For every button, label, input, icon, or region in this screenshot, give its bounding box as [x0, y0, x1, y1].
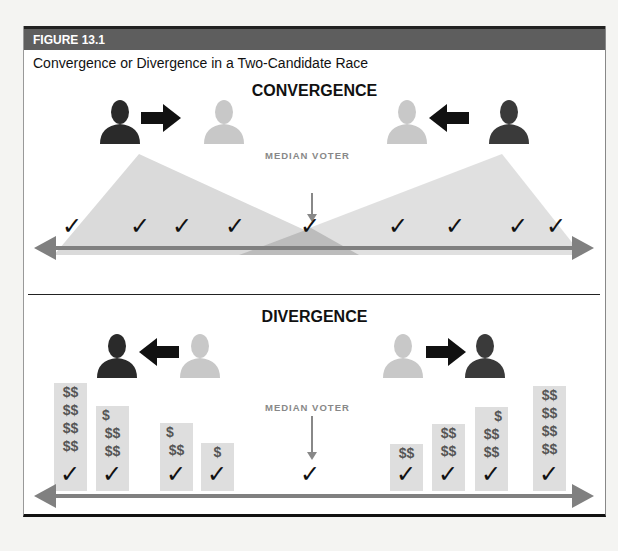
left-dark-person-icon — [97, 334, 137, 378]
figure: FIGURE 13.1 Convergence or Divergence in… — [23, 26, 606, 517]
median-voter-check: ✓ — [300, 462, 320, 486]
divergence-median-label: MEDIAN VOTER — [265, 402, 350, 413]
right-arrow-icon — [426, 338, 466, 366]
right-dark-person-icon — [465, 334, 505, 378]
left-light-person-icon — [180, 334, 220, 378]
axis-left-arrow-icon — [34, 484, 56, 508]
axis-right-arrow-icon — [572, 484, 594, 508]
voter-check: ✓ — [166, 462, 186, 486]
voter-check: ✓ — [60, 462, 80, 486]
median-arrow-icon — [307, 452, 317, 460]
voter-check: ✓ — [396, 462, 416, 486]
divergence-diagram — [24, 26, 605, 514]
voter-check: ✓ — [102, 462, 122, 486]
voter-check: ✓ — [207, 462, 227, 486]
right-light-person-icon — [383, 334, 423, 378]
voter-check: ✓ — [481, 462, 501, 486]
voter-check: ✓ — [539, 462, 559, 486]
voter-check: ✓ — [438, 462, 458, 486]
left-arrow-icon — [139, 338, 179, 366]
